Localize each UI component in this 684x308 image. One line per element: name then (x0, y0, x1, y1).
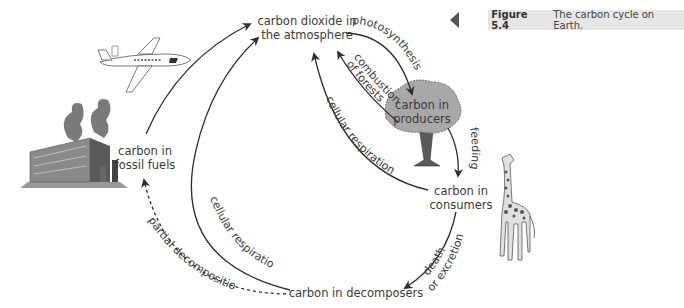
respiration-decomposers-arrow (191, 38, 290, 290)
giraffe-illustration (500, 154, 535, 260)
consumers-line2: consumers (424, 198, 498, 212)
fossil-fuels-line1: carbon in (108, 144, 182, 158)
combustion-fossil-arrow (146, 24, 250, 134)
feeding-label: feeding (467, 126, 482, 170)
atmosphere-node: carbon dioxide in the atmosphere (252, 14, 362, 42)
fossil-fuels-node: carbon in fossil fuels (108, 144, 182, 172)
airplane-illustration (98, 38, 191, 92)
decomposers-node: carbon in decomposers (286, 286, 426, 300)
consumers-line1: carbon in (424, 184, 498, 198)
producers-node: carbon in producers (386, 98, 458, 126)
feeding-arrow (448, 128, 458, 176)
cellular-respiration-decomposers-label: cellular respiration (0, 0, 276, 271)
atmosphere-line2: the atmosphere (252, 28, 362, 42)
atmosphere-line1: carbon dioxide in (252, 14, 362, 28)
producers-line1: carbon in (386, 98, 458, 112)
fossil-fuels-line2: fossil fuels (108, 158, 182, 172)
producers-line2: producers (386, 112, 458, 126)
diagram-graphics: photosynthesis combustion of forests cel… (0, 0, 684, 308)
carbon-cycle-diagram: Figure 5.4 The carbon cycle on Earth. (0, 0, 684, 308)
consumers-node: carbon in consumers (424, 184, 498, 212)
decomposers-line1: carbon in decomposers (286, 286, 426, 300)
